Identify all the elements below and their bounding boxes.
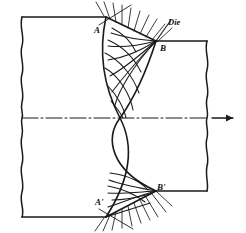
slipline-beta-family-upper <box>105 28 141 118</box>
label-point-a: A <box>94 26 100 35</box>
label-die: Die <box>168 18 180 27</box>
slip-line-field-figure: A B A' B' Die <box>0 0 246 233</box>
die-face-hatching-upper <box>96 2 172 42</box>
label-point-b-prime: B' <box>157 183 166 192</box>
flow-direction-arrow-head <box>226 115 233 122</box>
break-line-right <box>206 41 208 191</box>
break-line-left <box>21 17 23 217</box>
label-point-a-prime: A' <box>95 198 104 207</box>
diagram-canvas <box>0 0 246 233</box>
label-point-b: B <box>160 44 166 53</box>
